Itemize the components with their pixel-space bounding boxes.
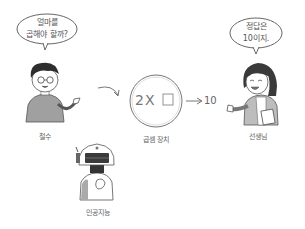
teacher-speech-line-2: 10이지. xyxy=(230,33,282,45)
teacher-speech: 정답은 10이지. xyxy=(230,21,282,47)
robot-name-label: 인공지능 xyxy=(80,207,116,217)
machine-output: 10 xyxy=(204,95,217,106)
robot-character xyxy=(76,144,114,200)
right-arrow-icon xyxy=(186,98,202,104)
boy-speech-line-1: 얼마를 xyxy=(17,17,77,29)
boy-speech-line-2: 곱해야 할까? xyxy=(17,29,77,41)
teacher-character xyxy=(227,63,278,125)
blank-box-icon xyxy=(163,94,173,105)
teacher-speech-line-1: 정답은 xyxy=(230,21,282,33)
boy-name-label: 철수 xyxy=(30,131,60,141)
teacher-name-label: 선생님 xyxy=(240,131,276,141)
curved-arrow-icon xyxy=(98,87,119,96)
boy-speech: 얼마를 곱해야 할까? xyxy=(17,17,77,43)
machine-expression: 2X xyxy=(135,92,156,108)
boy-character xyxy=(26,63,80,122)
machine-label: 곱셈 장치 xyxy=(131,134,181,144)
